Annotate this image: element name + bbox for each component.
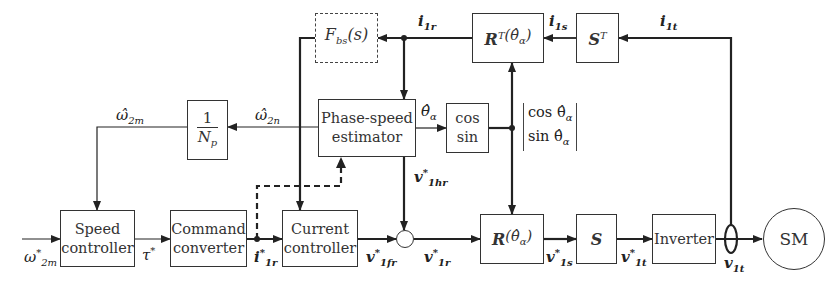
filter-fbs-label: Fbs(s): [325, 25, 368, 50]
label-i-1t: i1t: [660, 14, 677, 32]
speed-controller-block: Speed controller: [60, 210, 135, 267]
summing-junction: [396, 230, 414, 248]
sin-label: sin: [457, 128, 478, 147]
rotation-rt-symbol: RT: [485, 26, 505, 49]
fraction-denominator: Np: [198, 128, 218, 152]
label-v-1s-ref: v*1s: [546, 248, 573, 268]
label-theta-alpha-hat: θ̂α: [421, 104, 437, 122]
current-controller-block: Current controller: [282, 210, 358, 267]
command-converter-block: Command converter: [170, 210, 247, 267]
inverse-pole-pairs-block: 1 Np: [187, 100, 228, 160]
label-omega-2m-ref: ω*2m: [24, 248, 57, 268]
synchronous-motor: SM: [763, 208, 825, 270]
speed-controller-line2: controller: [61, 239, 133, 258]
phase-speed-estimator-block: Phase-speed estimator: [318, 99, 416, 157]
label-omega-2m-hat: ω̂2m: [116, 108, 144, 126]
label-v-1r-ref: v*1r: [424, 248, 450, 268]
transform-st-symbol: ST: [588, 26, 606, 49]
cos-sin-block: cos sin: [446, 103, 489, 153]
estimator-line1: Phase-speed: [321, 109, 413, 128]
command-converter-line1: Command: [171, 220, 246, 239]
filter-fbs-block: Fbs(s): [315, 13, 378, 63]
cos-label: cos: [455, 109, 479, 128]
rotation-r-symbol: R: [492, 230, 505, 249]
estimator-line2: estimator: [332, 128, 402, 147]
rotation-r-block: R (θ̂α): [480, 214, 544, 264]
current-controller-line1: Current: [291, 220, 349, 239]
label-cos-sin-vector: cos θ̂α sin θ̂α: [523, 103, 577, 151]
fraction-numerator: 1: [197, 109, 219, 128]
vector-row-cos: cos θ̂α: [528, 103, 572, 127]
label-v-1t-ref: v*1t: [621, 248, 647, 268]
fraction: 1 Np: [197, 109, 219, 152]
inverter-label: Inverter: [654, 230, 714, 249]
transform-s-block: S: [576, 214, 617, 264]
inverter-block: Inverter: [652, 214, 716, 264]
transform-s-symbol: S: [591, 230, 603, 249]
label-omega-2n-hat: ω̂2n: [255, 108, 280, 126]
rotation-rt-block: RT (θ̂α): [472, 13, 544, 63]
transform-st-block: ST: [576, 13, 619, 63]
label-i-1r-ref: i*1r: [254, 248, 277, 268]
label-tau-ref: τ*: [142, 246, 155, 263]
motor-label: SM: [779, 229, 808, 249]
rotation-r-arg: (θ̂α): [505, 227, 532, 251]
rotation-rt-arg: (θ̂α): [505, 26, 532, 50]
command-converter-line2: converter: [173, 239, 244, 258]
label-v-1hr-ref: v*1hr: [414, 168, 447, 188]
label-i-1s: i1s: [549, 14, 567, 32]
vector-row-sin: sin θ̂α: [528, 127, 572, 151]
current-controller-line2: controller: [284, 239, 356, 258]
label-i-1r: i1r: [418, 14, 436, 32]
speed-controller-line1: Speed: [75, 220, 121, 239]
label-v-1t: v1t: [724, 256, 744, 274]
label-v-1fr-ref: v*1fr: [366, 248, 396, 268]
